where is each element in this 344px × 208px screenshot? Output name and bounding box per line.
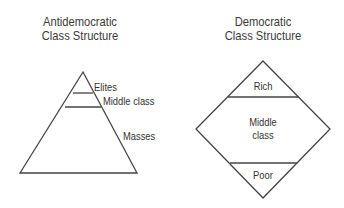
label-elites: Elites — [94, 81, 117, 93]
pyramid-outline — [20, 72, 137, 173]
label-middle-class-diamond: Middle class — [238, 116, 289, 142]
label-middle-line1: Middle — [238, 116, 289, 129]
left-title: Antidemocratic Class Structure — [28, 15, 131, 43]
label-middle-class: Middle class — [103, 95, 154, 107]
label-middle-line2: class — [238, 129, 289, 142]
right-title: Democratic Class Structure — [211, 15, 314, 43]
right-title-line2: Class Structure — [211, 29, 314, 43]
antidemocratic-pyramid — [20, 72, 137, 173]
label-poor: Poor — [238, 169, 289, 182]
label-masses: Masses — [123, 130, 155, 142]
left-title-line1: Antidemocratic — [28, 15, 131, 29]
right-title-line1: Democratic — [211, 15, 314, 29]
label-rich: Rich — [238, 80, 289, 93]
left-title-line2: Class Structure — [28, 29, 131, 43]
